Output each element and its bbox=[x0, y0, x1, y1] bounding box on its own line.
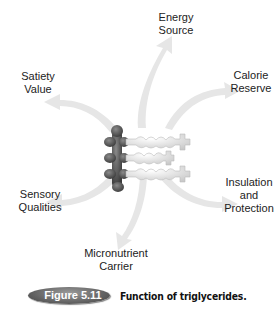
triglyceride-function-diagram: Energy Source Calorie Reserve Insulation… bbox=[0, 0, 280, 310]
fatty-acid-chain-2 bbox=[126, 151, 174, 165]
fatty-acid-chain-3 bbox=[126, 166, 190, 182]
figure-caption: Figure 5.11 Function of triglycerides. bbox=[40, 287, 264, 304]
figure-number-badge: Figure 5.11 bbox=[28, 287, 110, 304]
label-micronutrient-carrier: Micronutrient Carrier bbox=[78, 247, 154, 273]
arrow-satiety-value bbox=[44, 94, 117, 132]
label-sensory-qualities: Sensory Qualities bbox=[10, 188, 70, 214]
label-satiety-value: Satiety Value bbox=[12, 70, 64, 96]
label-energy-source: Energy Source bbox=[146, 11, 206, 37]
caption-text: Function of triglycerides. bbox=[120, 290, 247, 302]
arrow-energy-source bbox=[138, 36, 172, 128]
fatty-acid-chain-1 bbox=[126, 134, 190, 150]
label-calorie-reserve: Calorie Reserve bbox=[222, 69, 280, 95]
label-insulation-protection: Insulation and Protection bbox=[218, 176, 280, 215]
